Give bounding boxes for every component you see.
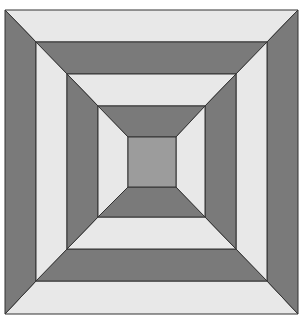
quilt-diagram [0, 0, 307, 323]
ring-1-right-trapezoid [267, 10, 298, 314]
ring-1-left-trapezoid [5, 10, 36, 314]
ring-2-top-trapezoid [36, 42, 267, 74]
ring-1-top-trapezoid [5, 10, 298, 42]
center-square [128, 137, 176, 187]
ring-2-left-trapezoid [36, 42, 67, 281]
ring-1-bottom-trapezoid [5, 281, 298, 314]
nested-squares-figure [0, 0, 307, 323]
ring-2-bottom-trapezoid [36, 249, 267, 281]
ring-2-right-trapezoid [236, 42, 267, 281]
